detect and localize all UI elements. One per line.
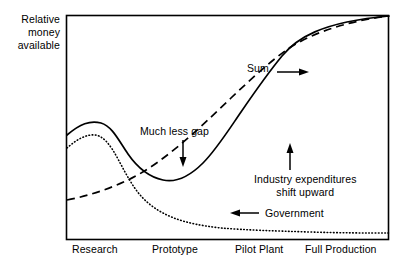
x-tick-full-production: Full Production bbox=[305, 243, 377, 255]
sum-curve bbox=[67, 16, 389, 181]
x-tick-pilot-plant: Pilot Plant bbox=[235, 243, 283, 255]
plot-frame bbox=[67, 16, 389, 240]
sum-arrow bbox=[277, 68, 309, 75]
industry-arrow bbox=[287, 143, 294, 170]
x-tick-research: Research bbox=[72, 243, 118, 255]
x-tick-prototype: Prototype bbox=[152, 243, 198, 255]
annotation-government-label: Government bbox=[265, 207, 324, 220]
annotation-industry-line-1: Industry expenditures bbox=[254, 173, 357, 186]
figure-container: Relative money available Much less gap S… bbox=[0, 0, 402, 267]
government-arrow bbox=[230, 209, 259, 216]
much-less-gap-arrow bbox=[180, 140, 187, 167]
annotation-sum-label: Sum bbox=[247, 62, 269, 75]
annotation-industry-line-2: shift upward bbox=[254, 186, 357, 199]
annotation-industry-expenditures: Industry expenditures shift upward bbox=[254, 173, 357, 198]
annotation-much-less-gap: Much less gap bbox=[140, 125, 209, 138]
